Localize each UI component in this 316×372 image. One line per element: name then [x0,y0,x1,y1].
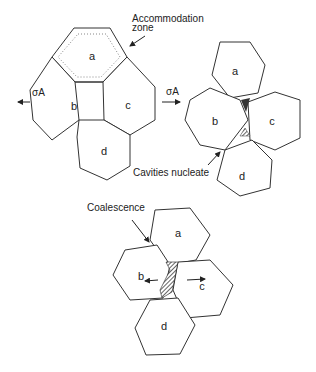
cavities-nucleate-label: Cavities nucleate [133,167,210,178]
diagram: a b c d Accommodation zone σA σA a b c d… [0,0,316,372]
grain-label-b: b [138,270,144,282]
panel-nucleation: σA a b c d Cavities nucleate [133,42,300,196]
grain-label-d: d [161,320,167,332]
zone-label: zone [132,22,154,33]
coalescence-label: Coalescence [87,202,145,213]
stress-label-left: σA [32,87,45,98]
grain-label-c: c [269,115,275,127]
grain-label-a: a [175,227,182,239]
grain-label-c: c [125,99,131,111]
grain-label-d: d [101,145,107,157]
grain-label-b: b [71,100,77,112]
grain-label-d: d [239,170,245,182]
grain-label-a: a [89,50,96,62]
annotation-arrow [208,152,220,165]
grain-label-b: b [212,115,218,127]
grain-label-c: c [199,280,205,292]
grain-label-a: a [232,65,239,77]
grain-a [212,42,265,98]
panel-coalescence: a b c d Coalescence [87,202,233,355]
stress-label-right: σA [166,86,179,97]
annotation-arrow [130,36,145,46]
annotation-arrow [132,220,149,242]
